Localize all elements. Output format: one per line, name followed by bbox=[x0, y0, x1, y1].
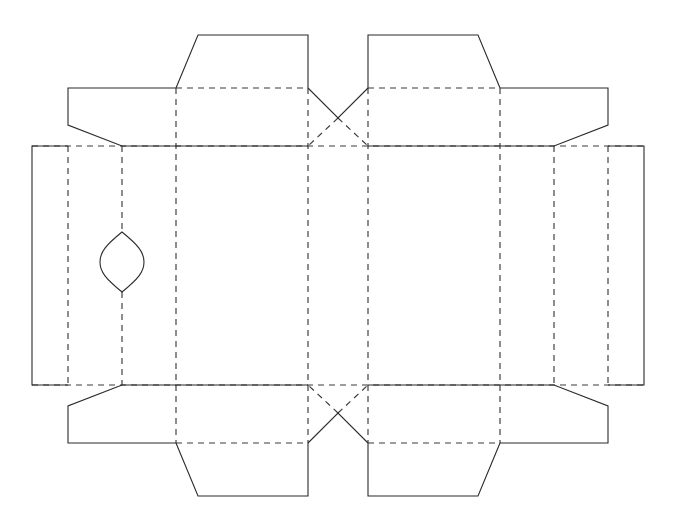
dieline-drawing bbox=[0, 0, 676, 531]
drawing-background bbox=[0, 0, 676, 531]
dieline-canvas bbox=[0, 0, 676, 531]
